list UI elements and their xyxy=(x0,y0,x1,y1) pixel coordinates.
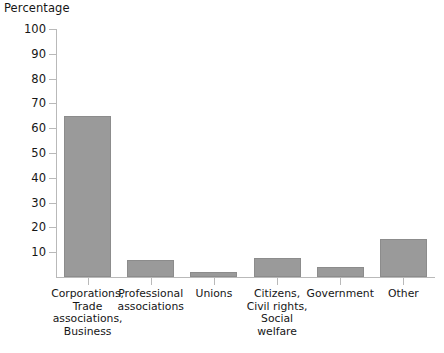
bar xyxy=(254,258,301,277)
x-axis-line xyxy=(56,277,435,278)
x-tick xyxy=(340,278,341,285)
y-tick-label: 90 xyxy=(2,47,46,61)
y-tick xyxy=(49,153,56,154)
page-title: Percentage xyxy=(4,1,70,15)
y-tick xyxy=(49,103,56,104)
y-tick xyxy=(49,227,56,228)
bar xyxy=(127,260,174,277)
x-axis-label: Other xyxy=(366,288,441,301)
x-tick xyxy=(403,278,404,285)
bar xyxy=(190,272,237,277)
y-tick-label: 70 xyxy=(2,96,46,110)
y-tick xyxy=(49,203,56,204)
x-axis-label-line: associations xyxy=(113,301,188,314)
x-tick xyxy=(88,278,89,285)
x-axis-label-line: associations, xyxy=(50,313,125,326)
x-axis-label-line: Business xyxy=(50,326,125,339)
x-tick xyxy=(151,278,152,285)
y-tick xyxy=(49,29,56,30)
y-tick-label: 100 xyxy=(2,22,46,36)
y-tick xyxy=(49,178,56,179)
y-tick xyxy=(49,128,56,129)
x-tick xyxy=(277,278,278,285)
bar xyxy=(380,239,427,277)
y-tick xyxy=(49,252,56,253)
y-axis-line xyxy=(56,29,57,278)
y-tick-label: 20 xyxy=(2,220,46,234)
x-axis-label-line: Social welfare xyxy=(240,313,315,338)
y-tick xyxy=(49,54,56,55)
y-tick-label: 50 xyxy=(2,146,46,160)
x-tick xyxy=(214,278,215,285)
y-tick xyxy=(49,79,56,80)
bar xyxy=(64,116,111,277)
y-tick-label: 40 xyxy=(2,171,46,185)
bar xyxy=(317,267,364,277)
y-tick-label: 30 xyxy=(2,196,46,210)
bar-chart: Percentage 100908070605040302010 Corpora… xyxy=(0,0,444,353)
y-tick-label: 60 xyxy=(2,121,46,135)
x-axis-label-line: Other xyxy=(366,288,441,301)
y-tick-label: 10 xyxy=(2,245,46,259)
clipped-caption xyxy=(0,347,444,353)
y-tick-label: 80 xyxy=(2,72,46,86)
